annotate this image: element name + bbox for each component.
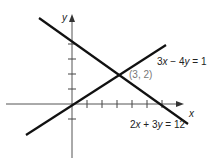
y-axis-label: y	[61, 12, 68, 23]
intersection-label: (3, 2)	[129, 69, 152, 80]
graph-diagram: y x (3, 2) 3x − 4y = 1 2x + 3y = 12	[0, 0, 210, 163]
x-axis-arrow-icon	[176, 101, 184, 107]
line-2x-plus-3y-eq-12	[39, 18, 188, 124]
x-axis-label: x	[188, 108, 195, 119]
y-axis-arrow-icon	[69, 14, 75, 22]
line-label-2x-plus-3y: 2x + 3y = 12	[130, 119, 185, 130]
line-label-3x-minus-4y: 3x − 4y = 1	[157, 56, 207, 67]
